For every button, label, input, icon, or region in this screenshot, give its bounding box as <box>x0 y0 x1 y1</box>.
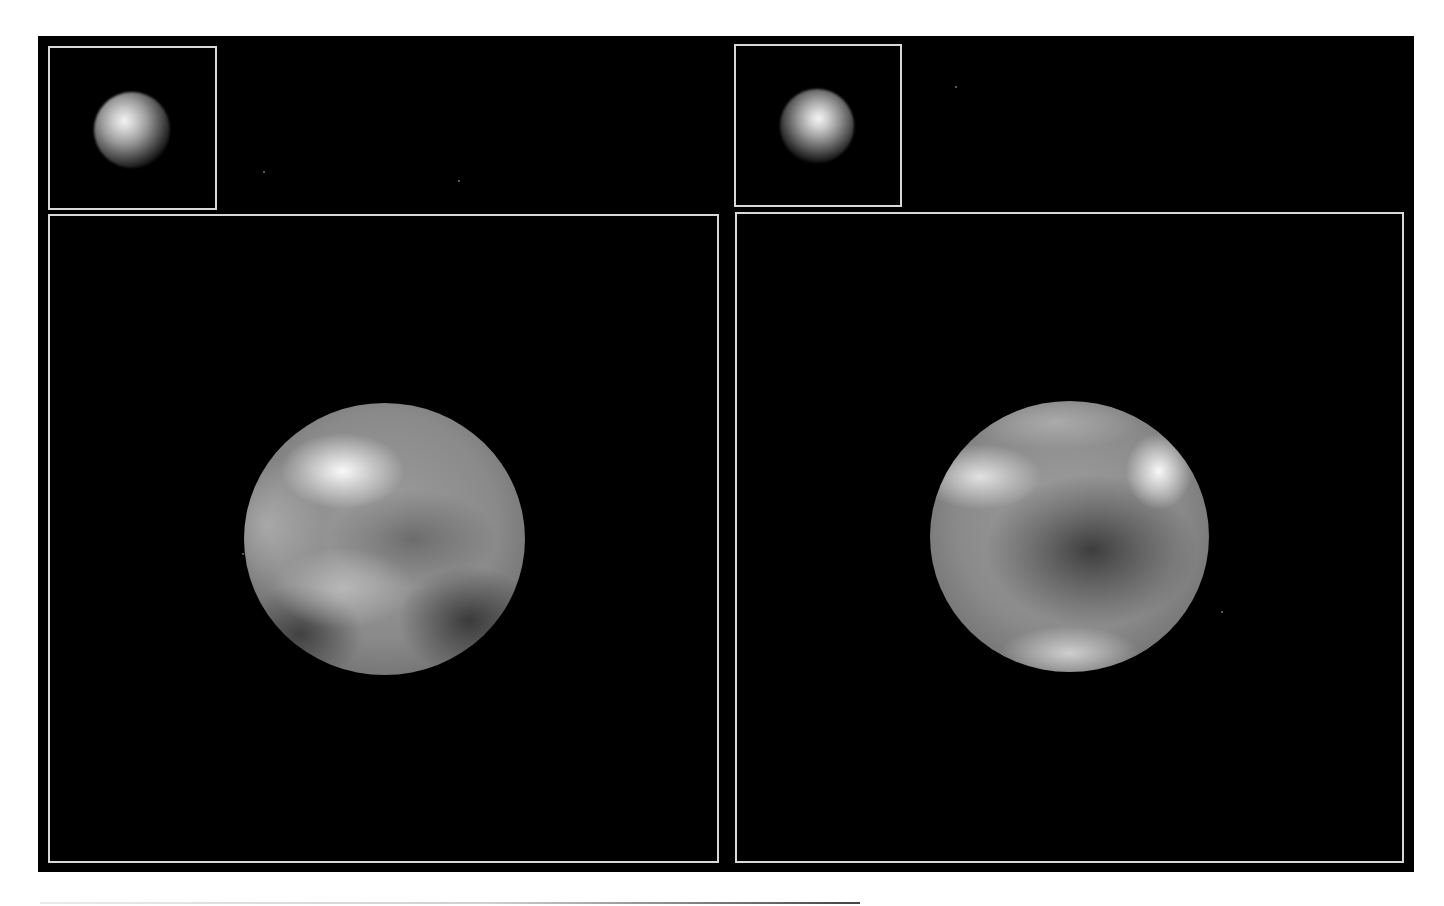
left-thumbnail-planet <box>94 92 170 168</box>
star-speck <box>1221 611 1223 613</box>
right-globe <box>930 401 1209 672</box>
star-speck <box>458 180 460 182</box>
star-speck <box>242 553 244 555</box>
star-speck <box>263 171 265 173</box>
right-thumbnail-planet <box>780 89 854 163</box>
star-speck <box>955 86 957 88</box>
bottom-rule <box>40 902 860 904</box>
left-globe <box>244 403 525 675</box>
